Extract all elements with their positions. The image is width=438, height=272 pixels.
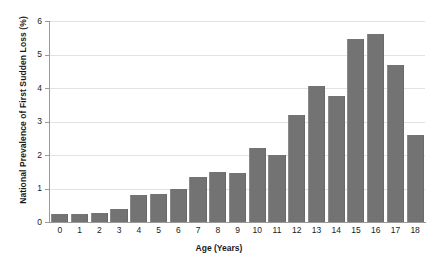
- bar: [347, 39, 364, 222]
- x-tick-label: 5: [149, 226, 169, 235]
- y-tick-label: 5: [28, 50, 42, 59]
- x-tick-label: 16: [366, 226, 386, 235]
- y-tick-label: 2: [28, 151, 42, 160]
- x-tick-label: 10: [247, 226, 267, 235]
- bar: [130, 195, 147, 222]
- y-tick-mark: [45, 155, 49, 156]
- y-tick-mark: [45, 88, 49, 89]
- bar: [170, 189, 187, 223]
- x-tick-label: 17: [385, 226, 405, 235]
- x-tick-label: 3: [109, 226, 129, 235]
- bar: [288, 115, 305, 222]
- bar: [71, 214, 88, 222]
- x-tick-label: 2: [89, 226, 109, 235]
- bar: [407, 135, 424, 222]
- bar: [328, 96, 345, 222]
- y-tick-label: 4: [28, 84, 42, 93]
- bar: [387, 65, 404, 222]
- x-tick-label: 0: [50, 226, 70, 235]
- y-tick-label: 0: [28, 218, 42, 227]
- y-tick-label: 6: [28, 17, 42, 26]
- x-tick-label: 9: [228, 226, 248, 235]
- bar: [209, 172, 226, 222]
- bar: [51, 214, 68, 222]
- bar: [110, 209, 127, 222]
- bar: [91, 213, 108, 222]
- bar: [268, 155, 285, 222]
- x-tick-label: 15: [346, 226, 366, 235]
- y-axis-title: National Prevalence of First Sudden Loss…: [18, 5, 28, 215]
- x-tick-label: 12: [287, 226, 307, 235]
- bar: [150, 194, 167, 222]
- y-tick-mark: [45, 21, 49, 22]
- bar: [229, 173, 246, 222]
- bar: [308, 86, 325, 222]
- bar-series: [50, 21, 425, 222]
- bar: [189, 177, 206, 222]
- x-tick-label: 6: [168, 226, 188, 235]
- y-tick-label: 1: [28, 184, 42, 193]
- x-tick-label: 13: [306, 226, 326, 235]
- x-tick-label: 8: [208, 226, 228, 235]
- x-tick-label: 1: [70, 226, 90, 235]
- y-tick-mark: [45, 222, 49, 223]
- x-tick-label: 11: [267, 226, 287, 235]
- bar: [367, 34, 384, 222]
- x-tick-label: 4: [129, 226, 149, 235]
- y-tick-mark: [45, 189, 49, 190]
- y-tick-mark: [45, 55, 49, 56]
- y-tick-mark: [45, 122, 49, 123]
- x-axis-line: [49, 222, 426, 223]
- y-tick-label: 3: [28, 117, 42, 126]
- x-tick-label: 7: [188, 226, 208, 235]
- x-tick-label: 14: [326, 226, 346, 235]
- bar: [249, 148, 266, 222]
- x-axis-title: Age (Years): [0, 243, 438, 253]
- plot-area: [50, 21, 425, 222]
- x-tick-label: 18: [405, 226, 425, 235]
- bar-chart-figure: National Prevalence of First Sudden Loss…: [0, 0, 438, 272]
